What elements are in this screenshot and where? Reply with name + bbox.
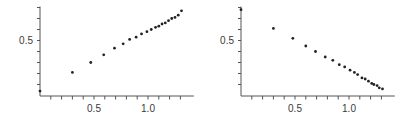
- y-tick-label: 0.5: [220, 35, 234, 46]
- data-point: [146, 30, 149, 33]
- data-point: [338, 63, 341, 66]
- data-point: [356, 73, 359, 76]
- data-point: [180, 9, 183, 12]
- data-point: [164, 22, 167, 25]
- data-point: [122, 42, 125, 45]
- data-point: [113, 47, 116, 50]
- data-point: [272, 27, 275, 30]
- data-point: [140, 33, 143, 36]
- x-tick-label: 0.5: [87, 103, 101, 114]
- data-point: [364, 78, 367, 81]
- data-point: [304, 45, 307, 48]
- y-tick-label: 0.5: [19, 35, 33, 46]
- data-point: [135, 36, 138, 39]
- x-tick-label: 1.0: [141, 103, 155, 114]
- data-point: [361, 77, 364, 80]
- data-point: [89, 61, 92, 64]
- data-point: [157, 25, 160, 28]
- data-point: [324, 56, 327, 59]
- x-tick-label: 0.5: [288, 103, 302, 114]
- data-point: [314, 50, 317, 53]
- chart-left: 0.50.51.0: [0, 0, 202, 124]
- data-point: [378, 86, 381, 89]
- x-tick-label: 1.0: [342, 103, 356, 114]
- data-point: [167, 19, 170, 22]
- data-point: [177, 14, 180, 17]
- data-point: [367, 80, 370, 83]
- data-point: [372, 83, 375, 86]
- data-point: [331, 59, 334, 62]
- data-point: [71, 71, 74, 74]
- chart-right-plot: 0.50.51.0: [201, 0, 403, 124]
- data-point: [353, 71, 356, 74]
- data-point: [102, 53, 105, 56]
- data-point: [349, 69, 352, 72]
- data-point: [291, 37, 294, 40]
- chart-right: 0.50.51.0: [201, 0, 403, 124]
- data-point: [343, 66, 346, 69]
- data-point: [376, 84, 379, 87]
- data-point: [174, 16, 177, 19]
- data-point: [381, 88, 384, 91]
- data-point: [240, 8, 243, 11]
- data-point: [150, 28, 153, 31]
- data-point: [39, 90, 42, 93]
- data-point: [128, 38, 131, 41]
- data-point: [161, 23, 164, 26]
- data-point: [170, 17, 173, 20]
- data-point: [154, 26, 157, 29]
- chart-left-plot: 0.50.51.0: [0, 0, 202, 124]
